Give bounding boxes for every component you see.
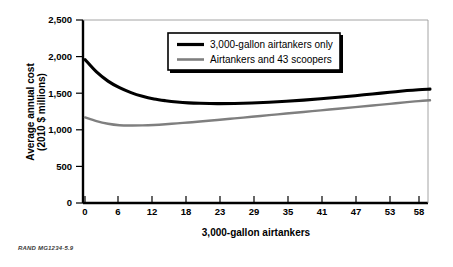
- x-tick-label-0: 0: [82, 206, 87, 217]
- x-tick-label-18: 18: [181, 206, 192, 217]
- legend-label-airtankers-only: 3,000-gallon airtankers only: [210, 39, 333, 50]
- x-tick-label-12: 12: [147, 206, 158, 217]
- x-tick-label-35: 35: [283, 206, 294, 217]
- y-axis-title: Average annual cost (2010 $ millions): [25, 63, 47, 161]
- y-tick-label-2000: 2,000: [48, 51, 72, 62]
- line-chart-svg: 0 500 1,000 1,500 2,000 2,500 0 6 12 18: [0, 0, 453, 267]
- y-tick-label-2500: 2,500: [48, 14, 72, 25]
- x-axis-title: 3,000-gallon airtankers: [202, 227, 311, 238]
- figure-credit: RAND MG1234-5.9: [18, 245, 74, 251]
- x-tick-label-47: 47: [351, 206, 362, 217]
- x-tick-label-58: 58: [414, 206, 425, 217]
- x-tick-label-53: 53: [385, 206, 396, 217]
- legend-label-airtankers-and-scoopers: Airtankers and 43 scoopers: [210, 54, 332, 65]
- y-tick-label-500: 500: [56, 161, 72, 172]
- legend-box-shadow-right: [340, 35, 343, 73]
- chart-figure: 0 500 1,000 1,500 2,000 2,500 0 6 12 18: [0, 0, 453, 267]
- x-tick-label-29: 29: [249, 206, 260, 217]
- x-tick-label-6: 6: [115, 206, 120, 217]
- legend-box-shadow-bottom: [170, 70, 342, 73]
- y-tick-label-0: 0: [67, 197, 72, 208]
- y-axis-title-line2: (2010 $ millions): [36, 73, 47, 151]
- y-axis-title-line1: Average annual cost: [25, 63, 36, 161]
- y-tick-label-1500: 1,500: [48, 88, 72, 99]
- x-tick-label-41: 41: [317, 206, 328, 217]
- chart-legend: 3,000-gallon airtankers only Airtankers …: [168, 33, 343, 73]
- y-tick-label-1000: 1,000: [48, 124, 72, 135]
- x-tick-label-23: 23: [215, 206, 226, 217]
